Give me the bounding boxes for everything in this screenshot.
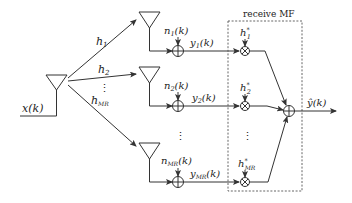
mf-multiplier-mr	[241, 170, 250, 187]
output-label-2: y2(k)	[191, 92, 216, 105]
noise-label-1: n1(k)	[164, 25, 189, 38]
branch-ellipsis-adder: ⋮	[175, 130, 186, 143]
combiner-adder	[284, 106, 295, 117]
output-label-1: y1(k)	[189, 37, 214, 50]
mf-coeff-label-mr: h*MR	[238, 157, 256, 171]
mf-coeff-label-1: h*1	[240, 26, 251, 41]
channel-label-mr: hMR	[91, 94, 109, 107]
noise-label-mr: nMR(k)	[161, 155, 192, 167]
channel-label-2: h2	[98, 63, 110, 77]
noise-adder-2	[173, 92, 184, 112]
combine-line-2	[250, 106, 284, 110]
channel-ellipsis: ⋮	[99, 82, 110, 95]
mf-multiplier-1	[241, 39, 250, 56]
mf-multiplier-2	[241, 94, 250, 111]
input-label: x(k)	[22, 102, 43, 115]
branch-ellipsis-mf: ⋮	[242, 130, 253, 143]
combine-line-mr	[250, 117, 288, 182]
output-label: ŷ(k)	[306, 97, 327, 108]
receive-mf-title: receive MF	[243, 9, 295, 19]
channel-label-1: h1	[96, 35, 108, 49]
output-label-mr: yMR(k)	[189, 168, 220, 180]
noise-label-2: n2(k)	[164, 80, 189, 93]
noise-adder-1	[173, 37, 184, 57]
receive-mf-diagram: x(k) h1 h2 hMR ⋮ n1(k) y1(k) n2(k) y2(k)…	[0, 0, 352, 203]
mf-coeff-label-2: h*2	[240, 81, 251, 96]
noise-adder-mr	[173, 168, 184, 188]
combine-line-1	[250, 51, 287, 105]
